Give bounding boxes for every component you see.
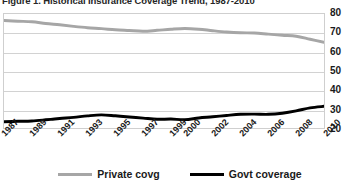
legend-item[interactable]: Govt coverage (190, 169, 302, 180)
y-tick-label: 60 (330, 47, 356, 57)
y-tick-label: 80 (330, 8, 356, 18)
chart-figure: Figure 1. Historical Insurance Coverage … (0, 0, 360, 182)
legend-swatch-icon (58, 173, 92, 176)
series-line (4, 20, 324, 42)
series-lines (4, 14, 324, 128)
chart-legend: Private covgGovt coverage (0, 166, 360, 182)
legend-label: Private covg (97, 169, 159, 180)
plot-area (3, 13, 325, 129)
x-axis: 1987198919911993199519971999200020022004… (3, 130, 325, 160)
legend-item[interactable]: Private covg (58, 169, 159, 180)
y-axis: 80706050403020 (330, 13, 358, 129)
y-tick-label: 70 (330, 27, 356, 37)
legend-swatch-icon (190, 173, 224, 176)
chart-title: Figure 1. Historical Insurance Coverage … (2, 0, 358, 7)
y-tick-label: 40 (330, 85, 356, 95)
y-tick-label: 50 (330, 66, 356, 76)
legend-label: Govt coverage (229, 169, 302, 180)
y-tick-label: 30 (330, 105, 356, 115)
